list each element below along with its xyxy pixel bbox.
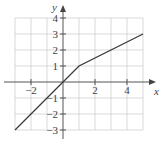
y-tick-label: −1: [46, 92, 58, 104]
ticks: −2244321−1−2−3: [25, 12, 130, 136]
y-tick-label: 1: [53, 60, 59, 72]
y-axis-arrow-icon: [60, 5, 66, 12]
y-tick-label: −2: [46, 108, 58, 120]
function-graph: x y −2244321−1−2−3: [0, 0, 162, 143]
y-tick-label: −3: [46, 124, 58, 136]
x-axis-label: x: [153, 85, 159, 97]
x-tick-label: 2: [92, 84, 98, 96]
chart-canvas: x y −2244321−1−2−3: [0, 0, 162, 143]
y-tick-label: 2: [53, 44, 59, 56]
x-tick-label: −2: [25, 84, 37, 96]
y-tick-label: 3: [53, 28, 59, 40]
x-tick-label: 4: [124, 84, 130, 96]
y-tick-label: 4: [53, 12, 59, 24]
grid: [15, 18, 143, 130]
